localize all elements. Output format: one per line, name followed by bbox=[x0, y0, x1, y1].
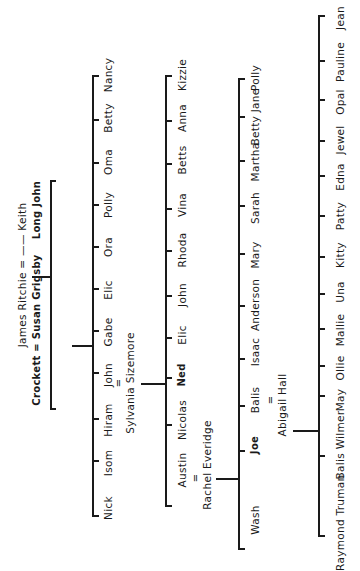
gen2-child: Nick bbox=[102, 496, 114, 520]
gen4-child: Anderson bbox=[249, 279, 261, 331]
gen4-bracket bbox=[238, 78, 240, 550]
couple-crockett-susan-grigsby: Crockett = Susan Grigsby bbox=[31, 254, 43, 405]
tick bbox=[92, 119, 99, 121]
gen3-child: Elic bbox=[176, 325, 188, 344]
tick bbox=[238, 450, 245, 452]
gen4-child: Polly bbox=[249, 65, 261, 91]
gen5-child: Jewel bbox=[334, 125, 346, 154]
tick bbox=[318, 535, 325, 537]
gen2-child: Betty bbox=[102, 103, 114, 133]
tick bbox=[165, 337, 172, 339]
gen2-child: Ora bbox=[102, 237, 114, 257]
tick bbox=[92, 460, 99, 462]
tick bbox=[318, 215, 325, 217]
gen5-child: Ollie bbox=[334, 356, 346, 381]
tick bbox=[165, 163, 172, 165]
john-sylvania-connector bbox=[141, 383, 166, 385]
gen2-child: Isom bbox=[102, 450, 114, 476]
tick bbox=[165, 377, 172, 379]
gen5-child: Edna bbox=[334, 163, 346, 191]
marriage-equals: = bbox=[190, 474, 201, 482]
gen4-child: Betty Jane bbox=[249, 88, 261, 145]
gen3-child: Betts bbox=[176, 146, 188, 175]
gen5-child: Una bbox=[334, 281, 346, 303]
tick bbox=[165, 505, 172, 507]
gen5-child: Patty bbox=[334, 202, 346, 230]
tick bbox=[238, 116, 245, 118]
marriage-equals: = bbox=[113, 379, 124, 387]
tick bbox=[318, 328, 325, 330]
gen4-child: Wash bbox=[249, 505, 261, 534]
gen2-bracket bbox=[92, 75, 94, 517]
gen2-child: Polly bbox=[102, 192, 114, 218]
tick bbox=[165, 424, 172, 426]
gen1-bracket bbox=[50, 180, 52, 410]
crockett-connector bbox=[72, 345, 93, 347]
tick bbox=[92, 204, 99, 206]
gen3-child: Ned bbox=[176, 363, 188, 386]
gen3-child: Anna bbox=[176, 104, 188, 132]
spouse-sylvania-sizemore: Sylvania Sizemore bbox=[124, 332, 136, 434]
gen4-child: Isaac bbox=[249, 338, 261, 367]
gen5-child: Jean bbox=[334, 6, 346, 30]
tick bbox=[318, 256, 325, 258]
gen4-child: Martha bbox=[249, 143, 261, 182]
marriage-equals: = bbox=[265, 396, 276, 404]
tick bbox=[318, 60, 325, 62]
tick bbox=[92, 372, 99, 374]
tick bbox=[92, 330, 99, 332]
austin-rachel-connector bbox=[216, 478, 239, 480]
gen4-child: Sarah bbox=[249, 192, 261, 224]
gen1-tick-crockett bbox=[50, 408, 56, 410]
tick bbox=[238, 78, 245, 80]
tick bbox=[92, 418, 99, 420]
tick bbox=[318, 395, 325, 397]
tick bbox=[238, 405, 245, 407]
gen5-child: Balis Wilmer bbox=[334, 411, 346, 480]
tick bbox=[92, 288, 99, 290]
gen3-child: John bbox=[176, 283, 188, 307]
tick bbox=[318, 15, 325, 17]
gen5-child: May bbox=[334, 389, 346, 412]
gen3-child: Rhoda bbox=[176, 233, 188, 268]
gen3-child: Vina bbox=[176, 193, 188, 217]
gen5-child: Mallie bbox=[334, 314, 346, 347]
gen4-child: Mary bbox=[249, 241, 261, 268]
gen5-child: Opal bbox=[334, 89, 346, 114]
tick bbox=[92, 75, 99, 77]
gen5-child: Truman bbox=[334, 475, 346, 516]
spouse-rachel-everidge: Rachel Everidge bbox=[201, 420, 213, 509]
tick bbox=[318, 455, 325, 457]
tick bbox=[238, 160, 245, 162]
tick bbox=[165, 208, 172, 210]
gen2-child: Gabe bbox=[102, 318, 114, 347]
tick bbox=[165, 295, 172, 297]
gen4-child: Joe bbox=[249, 436, 261, 454]
balis-abigail-connector bbox=[293, 430, 319, 432]
gen2-child: Nancy bbox=[102, 58, 114, 92]
tick bbox=[318, 99, 325, 101]
gen5-child: Raymond bbox=[334, 519, 346, 571]
tick bbox=[238, 548, 245, 550]
gen3-child: Nicolas bbox=[176, 400, 188, 440]
tick bbox=[238, 305, 245, 307]
gen4-child: Balis bbox=[249, 387, 261, 413]
person-long-john: Long John bbox=[31, 181, 43, 240]
gen5-bracket bbox=[318, 15, 320, 537]
tick bbox=[238, 205, 245, 207]
gen2-child: Oma bbox=[102, 149, 114, 175]
tick bbox=[165, 120, 172, 122]
tick bbox=[165, 75, 172, 77]
gen3-bracket bbox=[165, 75, 167, 507]
tick bbox=[238, 358, 245, 360]
gen1-tick-long-john bbox=[50, 180, 56, 182]
gen3-child: Austin bbox=[176, 453, 188, 488]
gen5-child: Pauline bbox=[334, 42, 346, 82]
tick bbox=[92, 162, 99, 164]
gen2-child: Elic bbox=[102, 280, 114, 299]
tick bbox=[92, 246, 99, 248]
tick bbox=[318, 365, 325, 367]
founders-couple-label: James Ritchie = —— Keith bbox=[16, 203, 28, 348]
tick bbox=[238, 253, 245, 255]
gen5-child: Kitty bbox=[334, 242, 346, 268]
